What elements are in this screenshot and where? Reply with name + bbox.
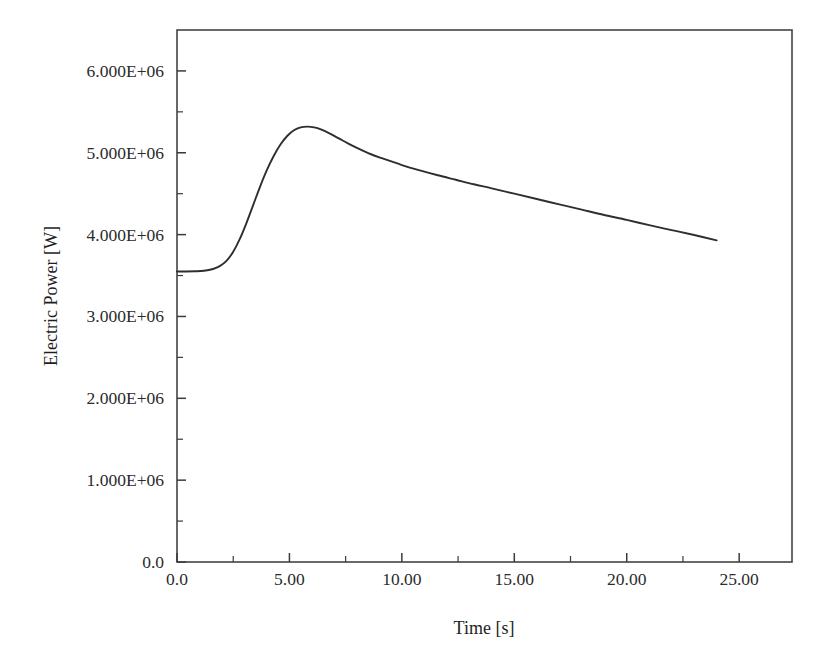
x-tick-label: 10.00 bbox=[382, 569, 422, 589]
chart-page: 0.05.0010.0015.0020.0025.00 0.01.000E+06… bbox=[0, 0, 831, 658]
x-axis-title: Time [s] bbox=[454, 618, 515, 638]
y-tick-label: 4.000E+06 bbox=[87, 225, 165, 245]
x-tick-label: 25.00 bbox=[719, 569, 759, 589]
electric-power-chart: 0.05.0010.0015.0020.0025.00 0.01.000E+06… bbox=[0, 0, 831, 658]
y-axis-title: Electric Power [W] bbox=[41, 226, 61, 366]
x-tick-label: 20.00 bbox=[607, 569, 647, 589]
y-tick-label: 3.000E+06 bbox=[87, 306, 165, 326]
y-tick-label: 0.0 bbox=[142, 552, 164, 572]
x-tick-label: 0.0 bbox=[166, 569, 188, 589]
x-tick-label: 15.00 bbox=[495, 569, 535, 589]
chart-background bbox=[0, 0, 831, 658]
x-tick-label: 5.00 bbox=[274, 569, 305, 589]
y-tick-label: 5.000E+06 bbox=[87, 143, 165, 163]
y-tick-label: 2.000E+06 bbox=[87, 388, 165, 408]
y-tick-label: 6.000E+06 bbox=[87, 61, 165, 81]
y-tick-label: 1.000E+06 bbox=[87, 470, 165, 490]
